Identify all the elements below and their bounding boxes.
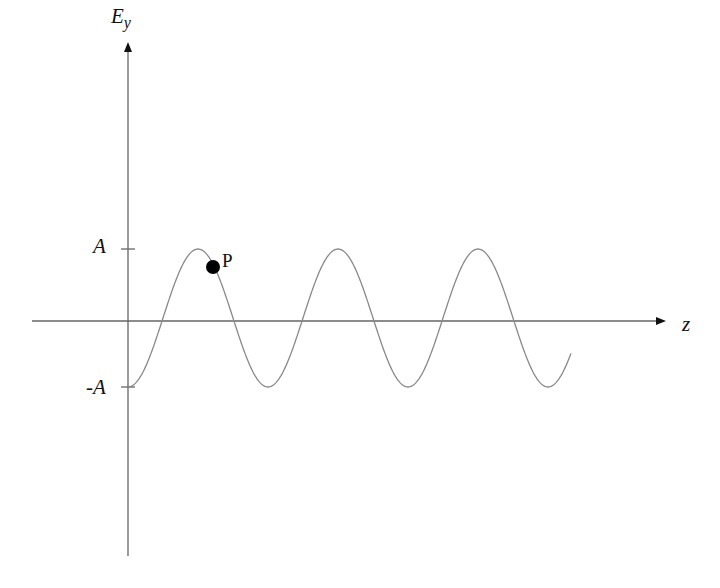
wave-diagram: [0, 0, 720, 588]
tick-A-label: A: [93, 234, 106, 259]
ey-label-subscript: y: [124, 14, 131, 31]
tick-minus-A-label: -A: [86, 375, 106, 400]
z-axis-label: z: [682, 312, 690, 337]
z-axis-arrow-icon: [656, 317, 666, 325]
sine-wave: [128, 249, 571, 387]
ey-label-main: E: [111, 4, 124, 28]
point-p-label: P: [222, 250, 233, 272]
point-p: [206, 260, 220, 274]
ey-axis-label: Ey: [111, 4, 131, 32]
ey-axis-arrow-icon: [124, 42, 132, 52]
